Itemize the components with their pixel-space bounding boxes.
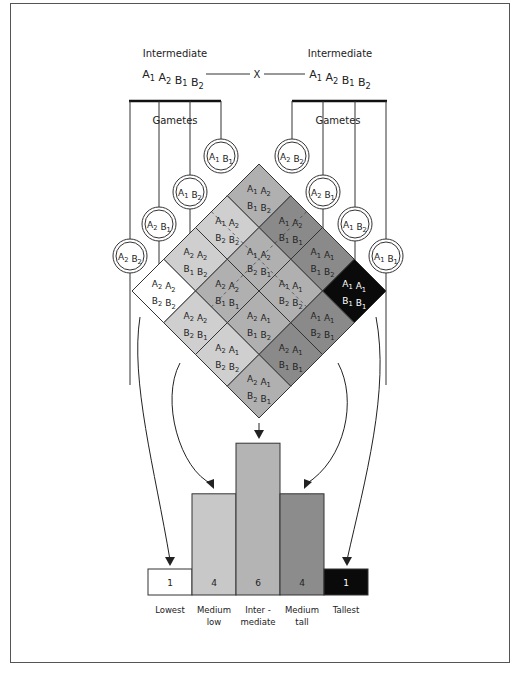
bar-category-label: Medium bbox=[285, 605, 319, 615]
bar-category-label-2: mediate bbox=[240, 617, 275, 627]
bar-0: 1Lowest bbox=[148, 569, 192, 615]
left-gametes-label: Gametes bbox=[152, 115, 197, 126]
gamete-left-1: A1 B2 bbox=[173, 175, 207, 209]
gamete-right-3: A1 B1 bbox=[369, 239, 403, 273]
right-parent-phenotype: Intermediate bbox=[308, 48, 373, 59]
bar-category-label-2: low bbox=[207, 617, 222, 627]
arrow-to-medium-low bbox=[172, 363, 212, 484]
bar-2: 6Inter -mediate bbox=[236, 443, 280, 627]
gamete-left-2: A2 B1 bbox=[142, 207, 176, 241]
bar-category-label: Lowest bbox=[155, 605, 185, 615]
dihybrid-cross-diagram: Intermediate Intermediate A1 A2 B1 B2 A1… bbox=[0, 0, 518, 694]
genotype-text: A1 A2 B1 B2 bbox=[309, 68, 371, 91]
bar-value: 1 bbox=[343, 578, 349, 588]
cross-symbol: X bbox=[254, 69, 261, 80]
bar-category-label: Tallest bbox=[332, 605, 360, 615]
left-parent-phenotype: Intermediate bbox=[143, 48, 208, 59]
genotype-text: A1 A2 B1 B2 bbox=[142, 68, 204, 91]
gamete-right-0: A2 B2 bbox=[275, 139, 309, 173]
height-distribution-bars: 1Lowest4Mediumlow6Inter -mediate4Mediumt… bbox=[148, 443, 368, 627]
bar-value: 1 bbox=[167, 578, 173, 588]
right-parent-genotype: A1 A2 B1 B2 bbox=[309, 68, 371, 91]
gamete-right-1: A2 B1 bbox=[306, 175, 340, 209]
arrow-to-tallest bbox=[347, 317, 380, 560]
arrow-to-lowest bbox=[138, 317, 170, 560]
bar-1: 4Mediumlow bbox=[192, 494, 236, 627]
bar-category-label: Inter - bbox=[245, 605, 271, 615]
right-gametes-label: Gametes bbox=[315, 115, 360, 126]
gamete-left-0: A1 B1 bbox=[204, 139, 238, 173]
gamete-left-3: A2 B2 bbox=[113, 239, 147, 273]
gamete-right-2: A1 B2 bbox=[338, 207, 372, 241]
bar-category-label-2: tall bbox=[295, 617, 308, 627]
bar-value: 6 bbox=[255, 578, 261, 588]
punnett-diamond: A1 A2B1 B2A1 A2B1 B1A1 A1B1 B2A1 A1B1 B1… bbox=[132, 164, 386, 418]
bar-3: 4Mediumtall bbox=[280, 494, 324, 627]
bar-value: 4 bbox=[211, 578, 217, 588]
bar-4: 1Tallest bbox=[324, 569, 368, 615]
arrow-to-medium-tall bbox=[306, 363, 347, 484]
bar-category-label: Medium bbox=[197, 605, 231, 615]
left-parent-genotype: A1 A2 B1 B2 bbox=[142, 68, 204, 91]
bar-value: 4 bbox=[299, 578, 305, 588]
